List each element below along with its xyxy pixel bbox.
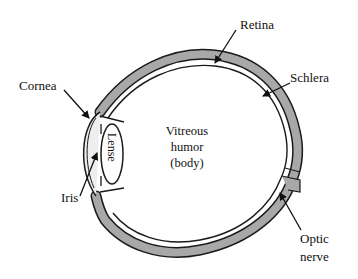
label-vitreous-line3: (body) [152, 156, 222, 170]
label-iris: Iris [61, 191, 78, 205]
label-cornea: Cornea [19, 79, 57, 93]
label-optic-line1: Optic [300, 232, 329, 246]
label-optic-line2: nerve [300, 250, 329, 264]
label-vitreous-line1: Vitreous [152, 124, 222, 138]
label-retina: Retina [240, 18, 274, 32]
label-vitreous-line2: humor [152, 140, 222, 154]
label-schlera: Schlera [290, 71, 329, 85]
optic-nerve-arrow [280, 193, 301, 230]
cornea-arrow [64, 90, 89, 118]
label-lense: Lense [104, 133, 119, 162]
